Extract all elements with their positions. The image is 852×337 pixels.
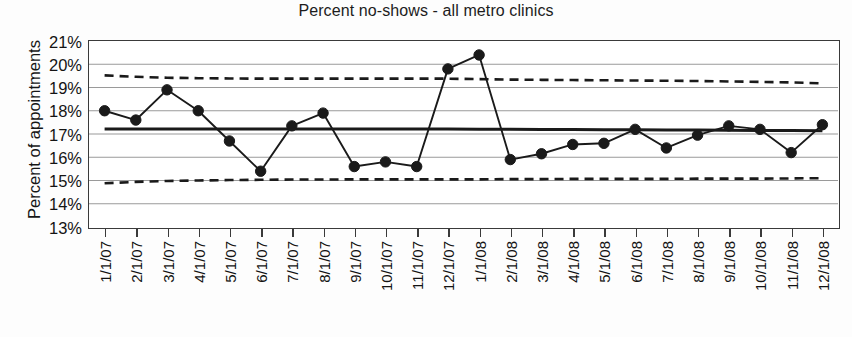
plot-area: [88, 40, 840, 229]
data-point-marker: [505, 154, 515, 164]
x-axis-tickmark: [823, 229, 824, 237]
data-point-marker: [536, 149, 546, 159]
data-point-marker: [599, 138, 609, 148]
x-axis-tickmark: [448, 229, 449, 237]
x-axis-tick-label: 4/1/08: [566, 241, 581, 283]
upper-control-limit-line: [105, 75, 823, 83]
x-axis-tickmark: [480, 229, 481, 237]
x-axis-tickmark: [199, 229, 200, 237]
data-point-marker: [443, 64, 453, 74]
data-point-marker: [255, 166, 265, 176]
y-axis-tick-label: 18%: [26, 103, 82, 120]
y-axis-tick-label: 14%: [26, 196, 82, 213]
x-axis-tickmark: [417, 229, 418, 237]
y-axis-tick-labels: 21%20%19%18%17%16%15%14%13%: [26, 40, 82, 229]
data-point-marker: [318, 108, 328, 118]
data-point-marker: [349, 161, 359, 171]
x-axis-tick-label: 12/1/07: [441, 241, 456, 291]
x-axis-tick-labels: 1/1/072/1/073/1/074/1/075/1/076/1/077/1/…: [88, 229, 840, 337]
x-axis-tick-label: 8/1/08: [691, 241, 706, 283]
data-point-marker: [131, 115, 141, 125]
x-axis-tick-label: 1/1/07: [98, 241, 113, 283]
data-point-marker: [287, 121, 297, 131]
data-point-marker: [568, 139, 578, 149]
x-axis-tick-label: 9/1/07: [347, 241, 362, 283]
data-point-marker: [724, 121, 734, 131]
x-axis-tick-label: 10/1/07: [378, 241, 393, 291]
x-axis-tick-label: 6/1/08: [628, 241, 643, 283]
x-axis-tickmark: [511, 229, 512, 237]
x-axis-tick-label: 2/1/08: [503, 241, 518, 283]
x-axis-tickmark: [355, 229, 356, 237]
x-axis-tick-label: 5/1/07: [222, 241, 237, 283]
x-axis-tick-label: 12/1/08: [815, 241, 830, 291]
data-point-marker: [817, 120, 827, 130]
x-axis-tickmark: [230, 229, 231, 237]
x-axis-tickmark: [792, 229, 793, 237]
x-axis-tickmark: [105, 229, 106, 237]
data-point-marker: [786, 147, 796, 157]
x-axis-tickmark: [729, 229, 730, 237]
x-axis-tick-label: 6/1/07: [254, 241, 269, 283]
data-point-marker: [99, 106, 109, 116]
x-axis-tickmark: [573, 229, 574, 237]
data-point-marker: [692, 130, 702, 140]
chart-title: Percent no-shows - all metro clinics: [0, 2, 852, 20]
x-axis-tick-label: 5/1/08: [597, 241, 612, 283]
plot-svg: [89, 41, 838, 227]
x-axis-tickmark: [386, 229, 387, 237]
x-axis-tickmark: [324, 229, 325, 237]
x-axis-tickmark: [168, 229, 169, 237]
y-axis-tick-label: 16%: [26, 150, 82, 167]
data-point-marker: [193, 106, 203, 116]
x-axis-tick-label: 8/1/07: [316, 241, 331, 283]
x-axis-tick-label: 7/1/08: [659, 241, 674, 283]
x-axis-tick-label: 4/1/07: [191, 241, 206, 283]
x-axis-tick-label: 11/1/07: [410, 241, 425, 290]
y-axis-tick-label: 20%: [26, 57, 82, 74]
x-axis-tickmark: [760, 229, 761, 237]
x-axis-tick-label: 3/1/08: [535, 241, 550, 283]
x-axis-tick-label: 1/1/08: [472, 241, 487, 283]
x-axis-tickmark: [698, 229, 699, 237]
x-axis-tickmark: [604, 229, 605, 237]
data-point-marker: [162, 85, 172, 95]
data-line: [105, 55, 823, 171]
x-axis-tick-label: 11/1/08: [784, 241, 799, 290]
x-axis-tickmark: [292, 229, 293, 237]
x-axis-tick-label: 7/1/07: [285, 241, 300, 283]
y-axis-tick-label: 15%: [26, 173, 82, 190]
chart-container: Percent no-shows - all metro clinics Per…: [0, 0, 852, 337]
data-point-marker: [411, 161, 421, 171]
x-axis-tick-label: 10/1/08: [753, 241, 768, 291]
data-point-marker: [661, 143, 671, 153]
x-axis-tick-label: 3/1/07: [160, 241, 175, 283]
data-point-marker: [630, 124, 640, 134]
y-axis-tick-label: 17%: [26, 126, 82, 143]
y-axis-tick-label: 13%: [26, 219, 82, 236]
x-axis-tickmark: [542, 229, 543, 237]
x-axis-tickmark: [136, 229, 137, 237]
x-axis-tickmark: [261, 229, 262, 237]
y-axis-tick-label: 19%: [26, 80, 82, 97]
y-axis-tick-label: 21%: [26, 33, 82, 50]
x-axis-tick-label: 2/1/07: [129, 241, 144, 283]
x-axis-tickmark: [636, 229, 637, 237]
x-axis-tickmark: [667, 229, 668, 237]
data-point-marker: [755, 124, 765, 134]
x-axis-tick-label: 9/1/08: [722, 241, 737, 283]
data-point-marker: [224, 136, 234, 146]
data-point-marker: [380, 157, 390, 167]
data-point-marker: [474, 50, 484, 60]
